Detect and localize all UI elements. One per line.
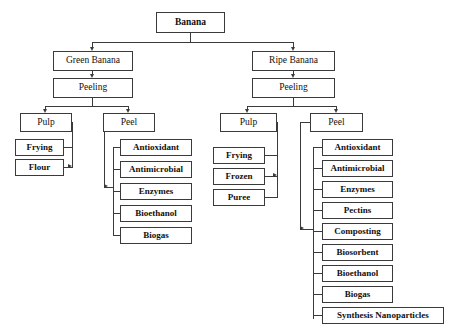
node-ripe-peel-biogas[interactable]: Biogas: [322, 286, 393, 303]
node-ripe-pulp-puree[interactable]: Puree: [213, 189, 265, 206]
connector-ripe-puree-to-bus: [265, 197, 278, 198]
connector-green-split-bus: [45, 106, 129, 107]
connector-green-peeling-stem: [92, 98, 93, 106]
node-green-peel-enzymes[interactable]: Enzymes: [120, 183, 192, 200]
arrow-ripe-peel-bus: [300, 226, 304, 230]
connector-ripe-peel-left-stem: [300, 122, 301, 229]
node-ripe-peel-enzymes[interactable]: Enzymes: [322, 181, 393, 198]
node-ripe-peel-pectins[interactable]: Pectins: [322, 202, 393, 219]
node-green-peel-antioxidant[interactable]: Antioxidant: [120, 139, 192, 156]
connector-root-bus: [92, 42, 294, 43]
node-green-peel-biogas[interactable]: Biogas: [120, 227, 192, 244]
node-green-peel[interactable]: Peel: [103, 113, 155, 132]
arrow-green-pulp-bus: [68, 164, 72, 168]
node-green-banana[interactable]: Green Banana: [53, 51, 133, 71]
arrow-green-peel-bus: [104, 184, 108, 188]
node-green-pulp-frying[interactable]: Frying: [15, 139, 64, 156]
node-green-peel-antimicrobial[interactable]: Antimicrobial: [120, 161, 192, 178]
connector-ripe-peeling-stem: [293, 98, 294, 106]
node-ripe-peel[interactable]: Peel: [310, 113, 363, 132]
node-ripe-pulp-frozen[interactable]: Frozen: [213, 168, 265, 185]
connector-green-pulp-right-stem: [72, 122, 73, 167]
node-ripe-peeling[interactable]: Peeling: [252, 78, 335, 98]
connector-ripe-split-bus: [247, 106, 337, 107]
node-banana-root[interactable]: Banana: [156, 12, 225, 33]
node-ripe-peel-bioethanol[interactable]: Bioethanol: [322, 265, 393, 282]
node-ripe-peel-biosorbent[interactable]: Biosorbent: [322, 244, 393, 261]
connector-green-frying-to-bus: [64, 147, 73, 148]
node-ripe-peel-synthesis-nanoparticles[interactable]: Synthesis Nanoparticles: [322, 307, 444, 324]
node-ripe-peel-antioxidant[interactable]: Antioxidant: [322, 139, 393, 156]
node-ripe-peel-antimicrobial[interactable]: Antimicrobial: [322, 160, 393, 177]
connector-ripe-frying-to-bus: [265, 155, 278, 156]
node-ripe-banana[interactable]: Ripe Banana: [252, 51, 335, 71]
node-green-pulp[interactable]: Pulp: [20, 113, 72, 132]
node-green-pulp-flour[interactable]: Flour: [15, 159, 64, 176]
node-ripe-pulp-frying[interactable]: Frying: [213, 147, 265, 164]
node-green-peel-bioethanol[interactable]: Bioethanol: [120, 205, 192, 222]
arrow-ripe-pulp-bus: [273, 173, 277, 177]
node-green-peeling[interactable]: Peeling: [53, 78, 133, 98]
node-ripe-pulp[interactable]: Pulp: [220, 113, 277, 132]
banana-valorization-flowchart: Banana Green Banana Peeling Pulp Frying …: [0, 0, 454, 331]
node-ripe-peel-composting[interactable]: Composting: [322, 223, 393, 240]
connector-ripe-pulp-right-stem: [277, 122, 278, 197]
connector-root-stem: [190, 33, 191, 42]
